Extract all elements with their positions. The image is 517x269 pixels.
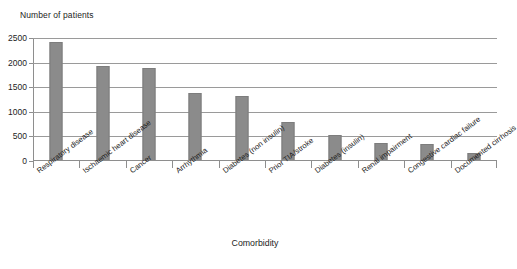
x-axis-title: Comorbidity <box>0 238 510 248</box>
y-tick-label: 2500 <box>8 33 27 43</box>
x-tick-mark <box>404 161 405 168</box>
bar[interactable] <box>50 42 63 161</box>
x-tick-mark <box>496 161 497 168</box>
x-tick-mark <box>219 161 220 168</box>
bar-slot <box>126 38 172 161</box>
y-tick-label: 0 <box>22 156 27 166</box>
x-axis-category-labels: Respiratory diseaseIschaemic heart disea… <box>33 168 497 230</box>
x-tick-mark <box>126 161 127 168</box>
y-tick-label: 1500 <box>8 82 27 92</box>
x-tick-mark <box>358 161 359 168</box>
bar[interactable] <box>142 68 155 161</box>
x-tick-mark <box>172 161 173 168</box>
y-axis-title: Number of patients <box>20 10 94 20</box>
x-tick-mark <box>451 161 452 168</box>
x-tick-mark <box>33 161 34 168</box>
y-tick-label: 500 <box>13 131 27 141</box>
bar-slot <box>172 38 218 161</box>
x-tick-mark <box>265 161 266 168</box>
y-tick-label: 1000 <box>8 107 27 117</box>
y-tick-label: 2000 <box>8 58 27 68</box>
